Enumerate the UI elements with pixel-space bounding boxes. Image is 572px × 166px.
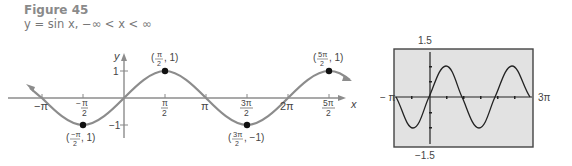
svg-text:2: 2	[326, 108, 331, 118]
svg-text:(: (	[228, 132, 232, 143]
point-3pi-over-2	[244, 122, 250, 128]
svg-text:2: 2	[73, 140, 77, 147]
x-tick-neg-pi-over-2: −π 2	[76, 98, 88, 118]
y-tick-neg1: −1	[109, 120, 121, 131]
svg-text:−: −	[76, 98, 81, 108]
x-tick-pi-over-2: π 2	[161, 98, 168, 118]
svg-text:π: π	[82, 98, 88, 108]
y-axis-arrow-icon	[121, 53, 127, 61]
svg-text:3π: 3π	[233, 130, 242, 139]
svg-text:2: 2	[82, 108, 87, 118]
calc-xmax-label: 3π	[538, 92, 551, 103]
label-3pi-over-2: ( 3π 2 , −1)	[228, 130, 264, 147]
x-tick-5pi-over-2: 5π 2	[322, 98, 335, 118]
x-tick-pi: π	[201, 100, 209, 112]
svg-text:(: (	[151, 52, 155, 63]
point-5pi-over-2	[326, 68, 332, 74]
y-tick-1: 1	[113, 66, 119, 77]
x-tick-neg-pi: −π	[34, 100, 48, 112]
svg-text:π: π	[162, 98, 168, 108]
calc-xmin-label: − π	[380, 92, 396, 103]
label-5pi-over-2: ( 5π 2 , 1)	[313, 50, 343, 67]
svg-text:(: (	[313, 52, 317, 63]
svg-text:2: 2	[162, 108, 167, 118]
x-tick-2pi: 2π	[280, 100, 294, 112]
svg-text:, 1): , 1)	[329, 52, 343, 63]
svg-text:−π: −π	[71, 130, 81, 139]
svg-text:, 1): , 1)	[164, 52, 178, 63]
label-pi-over-2: ( π 2 , 1)	[151, 50, 178, 67]
y-axis-label: y	[113, 50, 121, 62]
x-tick-3pi-over-2: 3π 2	[240, 98, 253, 118]
svg-text:π: π	[157, 50, 162, 59]
svg-text:, −1): , −1)	[244, 132, 264, 143]
point-neg-pi-over-2	[80, 122, 86, 128]
svg-text:, 1): , 1)	[81, 132, 95, 143]
svg-text:2: 2	[244, 108, 249, 118]
svg-text:2: 2	[157, 60, 161, 67]
calc-ymax-label: 1.5	[418, 35, 432, 46]
sine-graph: y x 1 −1 −π −π 2 π 2 π 3π 2 2π 5π 2 ( −π…	[0, 0, 380, 166]
svg-text:3π: 3π	[241, 98, 252, 108]
x-axis-arrow-icon	[338, 95, 346, 101]
svg-text:2: 2	[320, 60, 324, 67]
svg-text:5π: 5π	[323, 98, 334, 108]
svg-text:2: 2	[235, 140, 239, 147]
calculator-graph: 1.5 −1.5 − π 3π	[380, 0, 572, 166]
svg-text:5π: 5π	[318, 50, 327, 59]
calc-ymin-label: −1.5	[415, 150, 435, 161]
svg-text:(: (	[66, 132, 70, 143]
label-neg-pi-over-2: ( −π 2 , 1)	[66, 130, 95, 147]
point-pi-over-2	[162, 68, 168, 74]
x-axis-label: x	[350, 98, 357, 110]
